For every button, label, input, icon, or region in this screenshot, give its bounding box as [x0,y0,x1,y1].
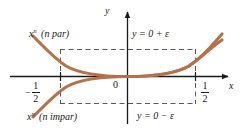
curve-label-even: xn (n par) [29,28,69,39]
figure-container: y x 0 − 1 2 1 2 xn (n par) xn (n impar) … [0,0,251,133]
curve-label-odd: xn (n impar) [27,111,77,122]
minus-sign: − [25,88,31,98]
y-axis-label: y [105,6,109,16]
band-upper-label: y = 0 + ε [132,29,169,39]
band-lower-label: y = 0 − ε [137,111,174,121]
fraction-stack: 1 2 [32,81,40,104]
fraction-denominator: 2 [32,94,39,104]
curve-odd-exponent: n [31,110,34,117]
x-tick-label-plus-half: 1 2 [201,81,209,104]
origin-label: 0 [113,80,118,90]
curve-even-parenthetical: (n par) [41,28,69,39]
fraction-numerator: 1 [202,81,209,91]
fraction-denominator: 2 [202,94,209,104]
curve-odd-parenthetical: (n impar) [39,111,77,122]
x-axis-label: x [229,81,233,91]
x-tick-label-minus-half: − 1 2 [25,81,40,104]
curve-even-exponent: n [33,27,36,34]
fraction-stack: 1 2 [201,81,209,104]
fraction-numerator: 1 [32,81,39,91]
